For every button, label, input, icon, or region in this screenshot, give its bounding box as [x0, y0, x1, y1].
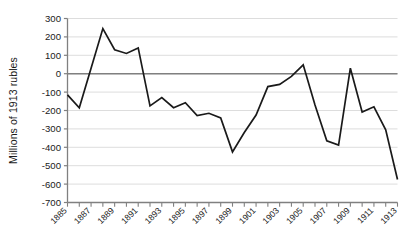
x-tick-label: 1901: [237, 205, 258, 226]
y-tick-label: 100: [45, 50, 61, 61]
grid-lines: [68, 19, 398, 203]
x-tick-label: 1905: [284, 205, 305, 226]
x-tick-label: 1909: [331, 205, 352, 226]
data-series-line: [68, 29, 398, 180]
x-tick-label: 1899: [213, 205, 234, 226]
y-tick-label: -200: [42, 105, 61, 116]
y-tick-label: -300: [42, 123, 61, 134]
chart-figure: 3002001000-100-200-300-400-500-600-700 1…: [0, 0, 409, 246]
x-tick-label: 1889: [95, 205, 116, 226]
y-tick-label: -500: [42, 160, 61, 171]
y-tick-label: 300: [45, 13, 61, 24]
line-chart: 3002001000-100-200-300-400-500-600-700 1…: [0, 0, 409, 246]
y-tick-label: -600: [42, 179, 61, 190]
x-axis: [68, 203, 398, 207]
x-tick-label: 1907: [308, 205, 329, 226]
y-axis-tick-labels: 3002001000-100-200-300-400-500-600-700: [42, 13, 61, 208]
y-tick-label: -100: [42, 87, 61, 98]
x-tick-label: 1897: [190, 205, 211, 226]
x-tick-label: 1911: [355, 205, 375, 225]
y-tick-label: 0: [56, 68, 61, 79]
x-tick-label: 1893: [143, 205, 164, 226]
y-tick-label: 200: [45, 31, 61, 42]
y-tick-label: -400: [42, 142, 61, 153]
series-line-net-balance: [68, 29, 398, 180]
x-tick-label: 1887: [72, 205, 93, 226]
x-axis-tick-labels: 1885188718891891189318951897189919011903…: [48, 205, 399, 226]
y-axis-title-text: Millions of 1913 rubles: [7, 57, 19, 164]
y-axis: [64, 19, 68, 203]
y-tick-label: -700: [42, 197, 61, 208]
x-tick-label: 1913: [378, 205, 399, 226]
y-axis-title: Millions of 1913 rubles: [7, 57, 19, 164]
x-tick-label: 1903: [260, 205, 281, 226]
x-tick-label: 1891: [119, 205, 140, 226]
x-tick-label: 1895: [166, 205, 187, 226]
x-tick-label: 1885: [48, 205, 69, 226]
